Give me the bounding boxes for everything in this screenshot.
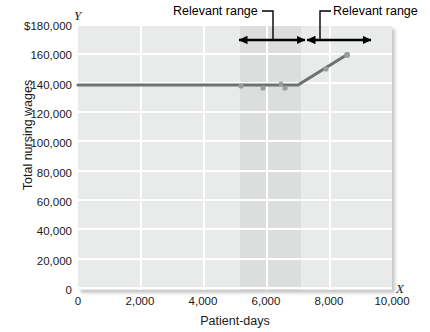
gridline-horizontal (78, 228, 392, 230)
gridline-horizontal (78, 111, 392, 113)
gridline-vertical (266, 26, 268, 290)
y-axis-title: Total nursing wages (21, 35, 35, 235)
y-tick-label: $180,000 (0, 21, 72, 32)
x-tick-label: 8,000 (299, 296, 359, 307)
gridline-horizontal (78, 82, 392, 84)
x-tick-label: 10,000 (362, 296, 422, 307)
annotation-label-relevant-range-right: Relevant range (333, 5, 418, 18)
x-tick-label: 4,000 (173, 296, 233, 307)
y-tick-label: 100,000 (0, 138, 72, 149)
chart-container: $180,000 160,000 140,000 120,000 100,000… (0, 0, 430, 332)
y-tick-label: 60,000 (0, 197, 72, 208)
gridline-horizontal (78, 258, 392, 260)
gridline-horizontal (78, 53, 392, 55)
gridline-vertical (329, 26, 331, 290)
y-tick-label: 0 (0, 285, 72, 296)
gridline-vertical (203, 26, 205, 290)
y-tick-label: 80,000 (0, 168, 72, 179)
x-axis-title: Patient-days (78, 314, 392, 328)
y-tick-label: 120,000 (0, 109, 72, 120)
annotation-label-relevant-range-left: Relevant range (173, 5, 258, 18)
x-tick-label: 2,000 (110, 296, 170, 307)
y-tick-label: 40,000 (0, 226, 72, 237)
y-tick-label: 140,000 (0, 80, 72, 91)
gridline-horizontal (78, 287, 392, 289)
gridline-horizontal (78, 170, 392, 172)
y-axis-letter: Y (74, 8, 81, 24)
y-tick-label: 20,000 (0, 256, 72, 267)
x-tick-label: 6,000 (236, 296, 296, 307)
x-axis-letter: X (396, 281, 404, 297)
gridline-horizontal (78, 199, 392, 201)
plot-area (78, 26, 392, 290)
gridline-vertical (140, 26, 142, 290)
x-tick-label: 0 (48, 296, 108, 307)
y-tick-label: 160,000 (0, 50, 72, 61)
gridline-horizontal (78, 140, 392, 142)
relevant-range-shaded-band (240, 26, 301, 290)
